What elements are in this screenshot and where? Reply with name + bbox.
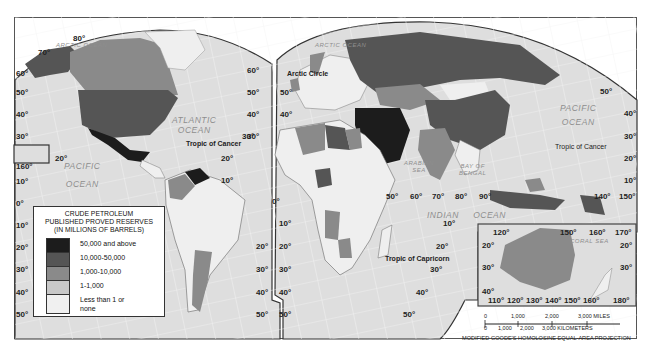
- lat-label: 40°: [247, 111, 259, 119]
- lat-label: 20°: [482, 242, 494, 250]
- legend-item: 1-1,000: [34, 280, 164, 294]
- ocean-label-pacific-west: PACIFICOCEAN: [64, 162, 100, 190]
- lat-label: 0°: [16, 200, 24, 208]
- lat-label: 10°: [279, 220, 291, 228]
- lat-label: 50°: [600, 88, 612, 96]
- ocean-label-arabian-sea: ARABIANSEA: [404, 160, 434, 174]
- lon-label: 180°: [613, 297, 630, 305]
- tropic-of-capricorn-label: Tropic of Capricorn: [385, 255, 450, 262]
- legend-title: CRUDE PETROLEUM PUBLISHED PROVED RESERVE…: [34, 210, 164, 234]
- lon-label: 150°: [619, 193, 636, 201]
- lon-label: 110°: [488, 297, 504, 305]
- lat-label: 20°: [16, 244, 28, 252]
- legend-item: Less than 1 or none: [34, 294, 164, 308]
- lon-label: 130°: [526, 297, 543, 305]
- lat-label: 20°: [221, 155, 233, 163]
- lat-label: 30°: [279, 266, 291, 274]
- lat-label: 30°: [430, 266, 442, 274]
- lat-label: 80°: [73, 35, 85, 43]
- lat-label: 10°: [624, 177, 636, 185]
- angola: [325, 210, 340, 240]
- lat-label: 30°: [16, 133, 28, 141]
- lat-label: 10°: [443, 220, 455, 228]
- tropic-of-cancer-west-label: Tropic of Cancer: [186, 140, 241, 147]
- lat-label: 40°: [16, 289, 28, 297]
- lat-label: 20°: [55, 155, 67, 163]
- lat-label: 50°: [279, 311, 291, 319]
- lat-label: 60°: [16, 70, 28, 78]
- lat-label: 20°: [256, 243, 268, 251]
- lat-label: 30°: [242, 133, 254, 141]
- legend-swatch: [46, 266, 70, 280]
- legend-swatch: [46, 238, 70, 252]
- ocean-label-pacific-east: PACIFICOCEAN: [560, 104, 596, 128]
- lat-label: 10°: [16, 178, 28, 186]
- lat-label: 30°: [16, 266, 28, 274]
- lat-label: 0°: [272, 198, 280, 206]
- lat-label: 10°: [16, 222, 28, 230]
- ocean-label-indian: INDIAN OCEAN: [427, 211, 506, 221]
- lat-label: 40°: [482, 288, 494, 296]
- lat-label: 20°: [279, 243, 291, 251]
- lon-label: 170°: [615, 229, 632, 237]
- lat-label: 50°: [247, 89, 259, 97]
- legend-item: 1,000-10,000: [34, 266, 164, 280]
- ocean-label-arctic-east: ARCTIC OCEAN: [315, 42, 366, 49]
- map-legend: CRUDE PETROLEUM PUBLISHED PROVED RESERVE…: [33, 206, 165, 317]
- lon-label: 160°: [589, 229, 606, 237]
- lon-label: 140°: [594, 193, 611, 201]
- ocean-label-bay-of-bengal: BAY OFBENGAL: [459, 163, 486, 177]
- lat-label: 30°: [256, 266, 268, 274]
- lat-label: 20°: [436, 243, 448, 251]
- lat-label: 10°: [221, 177, 233, 185]
- lat-label: 40°: [279, 289, 291, 297]
- lat-label: 50°: [403, 311, 415, 319]
- lon-label: 60°: [410, 193, 422, 201]
- lat-label: 50°: [280, 89, 292, 97]
- legend-swatch: [46, 280, 70, 294]
- hawaii-inset: [14, 145, 49, 163]
- lat-label: 40°: [280, 111, 292, 119]
- lat-label: 50°: [16, 311, 28, 319]
- lon-label: 150°: [564, 297, 581, 305]
- lon-label: 160°: [16, 163, 33, 171]
- lat-label: 70°: [38, 49, 50, 57]
- nigeria: [315, 168, 332, 188]
- lon-label: 160°: [583, 297, 600, 305]
- lat-label: 20°: [620, 242, 632, 250]
- lat-label: 40°: [416, 289, 428, 297]
- lat-label: 40°: [16, 111, 28, 119]
- lon-label: 120°: [493, 229, 510, 237]
- lon-label: 120°: [507, 297, 524, 305]
- lat-label: 60°: [247, 67, 259, 75]
- lon-label: 70°: [432, 193, 444, 201]
- projection-label: MODIFIED GOODE'S HOMOLOSINE EQUAL-AREA P…: [462, 335, 631, 341]
- ocean-label-coral-sea: CORAL SEA: [570, 238, 609, 245]
- legend-swatch: [46, 252, 70, 266]
- lat-label: 30°: [620, 264, 632, 272]
- scale-bar: 0 1,000 2,000 3,000 MILES 0 1,000 2,000 …: [484, 313, 634, 333]
- lat-label: 30°: [624, 133, 636, 141]
- lat-label: 20°: [624, 155, 636, 163]
- lon-label: 50°: [386, 193, 398, 201]
- legend-swatch: [46, 294, 70, 314]
- ocean-label-atlantic: ATLANTICOCEAN: [172, 116, 216, 136]
- lat-label: 40°: [256, 289, 268, 297]
- lat-label: 40°: [624, 110, 636, 118]
- lat-label: 50°: [256, 311, 268, 319]
- lon-label: 150°: [560, 229, 577, 237]
- tropic-of-cancer-east-label: Tropic of Cancer: [555, 143, 606, 150]
- legend-item: 50,000 and above: [34, 238, 164, 252]
- botswana: [338, 238, 352, 258]
- ocean-label-arctic-west: ARCTIC OCEAN: [56, 42, 107, 49]
- lon-label: 80°: [455, 193, 467, 201]
- lat-label: 50°: [16, 89, 28, 97]
- lon-label: 140°: [545, 297, 562, 305]
- arctic-circle-label: Arctic Circle: [287, 70, 328, 77]
- legend-item: 10,000-50,000: [34, 252, 164, 266]
- lon-label: 90°: [479, 193, 491, 201]
- lat-label: 30°: [482, 264, 494, 272]
